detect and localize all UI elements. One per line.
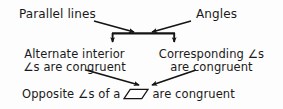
node-alternate-interior: Alternate interior ∠s are congruent — [9, 48, 140, 73]
flowchart-diagram: Parallel lines Angles Alternate interior… — [0, 0, 283, 109]
edge-angles-to-junction — [152, 21, 191, 32]
node-opposite: Opposite ∠s of a are congruent — [22, 88, 235, 101]
node-parallel-lines: Parallel lines — [19, 8, 96, 21]
node-corresponding-line1: Corresponding ∠s — [146, 48, 277, 61]
parallelogram-icon — [123, 88, 149, 100]
node-alternate-interior-line2: ∠s are congruent — [9, 61, 140, 74]
node-opposite-prefix: Opposite ∠s of a — [22, 88, 120, 101]
node-alternate-interior-line1: Alternate interior — [9, 48, 140, 61]
node-angles: Angles — [196, 8, 237, 21]
edge-parallel-to-junction — [94, 21, 134, 32]
node-corresponding: Corresponding ∠s are congruent — [146, 48, 277, 73]
node-opposite-suffix: are congruent — [152, 88, 234, 101]
node-corresponding-line2: are congruent — [146, 61, 277, 74]
